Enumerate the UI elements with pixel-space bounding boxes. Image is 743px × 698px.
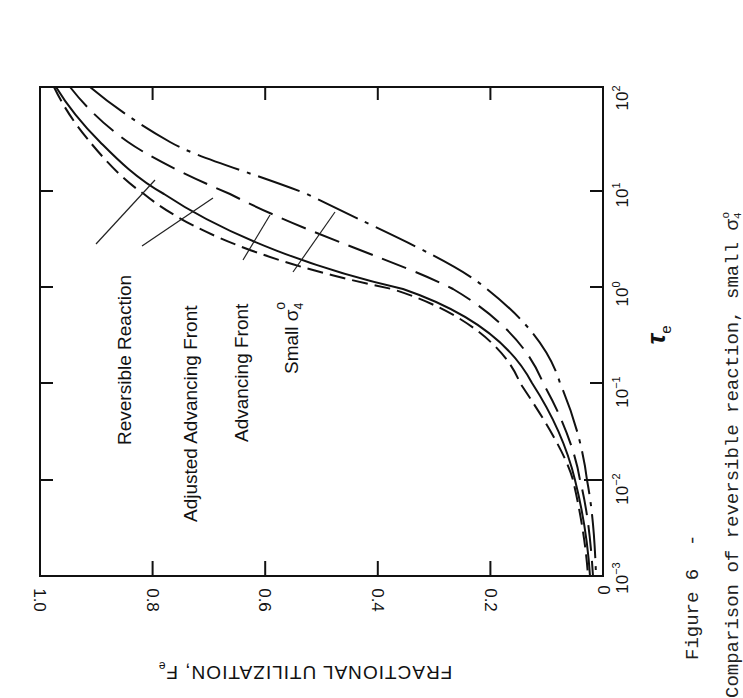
f-axis-title: FRACTIONAL UTILIZATION, Fe — [158, 659, 452, 683]
tick-exp: 0 — [610, 281, 622, 287]
f-tick-label: 1.0 — [30, 588, 49, 612]
small-sigma-sub: 4 — [292, 302, 306, 309]
svg-text:FRACTIONAL UTILIZATION, Fe: FRACTIONAL UTILIZATION, Fe — [158, 659, 452, 683]
f-tick-labels: 1.0 0.8 0.6 0.4 0.2 0 — [30, 585, 613, 612]
f-axis-ticks — [153, 87, 491, 576]
svg-text:τe: τe — [641, 326, 674, 345]
tick-exp: −1 — [610, 376, 622, 389]
svg-text:10−3: 10−3 — [610, 562, 632, 593]
tau-tick-labels: 102 101 100 10−1 10−2 10−3 — [610, 85, 632, 593]
tick-base: 10 — [613, 389, 632, 408]
caption-sigma-sup: o — [720, 212, 732, 219]
svg-text:101: 101 — [610, 182, 632, 207]
tick-base: 10 — [613, 92, 632, 111]
f-axis-label-sub: e — [158, 659, 166, 673]
small-sigma-sup: o — [272, 302, 288, 310]
tick-base: 10 — [613, 288, 632, 307]
f-tick-label: 0 — [594, 585, 613, 594]
tick-exp: −2 — [610, 473, 622, 486]
chart-figure: 1.0 0.8 0.6 0.4 0.2 0 102 101 100 10−1 1… — [0, 0, 743, 698]
label-advancing-front: Advancing Front — [231, 303, 252, 442]
tau-subscript: e — [657, 326, 674, 334]
caption-text: Comparison of reversible reaction, small… — [722, 219, 743, 698]
label-reversible-reaction: Reversible Reaction — [114, 275, 135, 445]
tick-exp: −3 — [610, 562, 622, 575]
caption-sigma-sub: 4 — [732, 212, 743, 219]
f-tick-label: 0.2 — [481, 588, 500, 612]
svg-text:10−2: 10−2 — [610, 473, 632, 504]
label-adjusted-advancing-front: Adjusted Advancing Front — [180, 305, 201, 522]
tick-base: 10 — [613, 575, 632, 594]
svg-text:Comparison of reversible react: Comparison of reversible reaction, small… — [720, 212, 743, 698]
f-tick-label: 0.8 — [143, 588, 162, 612]
curve-advancing-front — [70, 87, 593, 576]
caption-number: Figure 6 - — [682, 535, 704, 660]
tick-base: 10 — [613, 189, 632, 208]
tau-axis-title: τe — [641, 326, 674, 345]
svg-text:100: 100 — [610, 281, 632, 306]
f-axis-label-text: FRACTIONAL UTILIZATION, F — [165, 662, 452, 683]
f-tick-label: 0.4 — [368, 588, 387, 612]
small-sigma-text: Small σ — [281, 309, 302, 374]
figure-caption: Figure 6 - Comparison of reversible reac… — [682, 212, 743, 698]
svg-text:10−1: 10−1 — [610, 376, 632, 407]
curve-small-sigma — [90, 87, 596, 576]
f-tick-label: 0.6 — [255, 588, 274, 612]
tick-exp: 1 — [610, 182, 622, 188]
svg-text:102: 102 — [610, 85, 632, 110]
tick-base: 10 — [613, 486, 632, 505]
label-small-sigma: Small σ4o — [272, 302, 306, 374]
curves — [54, 87, 596, 576]
tick-exp: 2 — [610, 85, 622, 91]
series-labels: Reversible Reaction Adjusted Advancing F… — [114, 275, 306, 522]
svg-text:Small σ4o: Small σ4o — [272, 302, 306, 374]
